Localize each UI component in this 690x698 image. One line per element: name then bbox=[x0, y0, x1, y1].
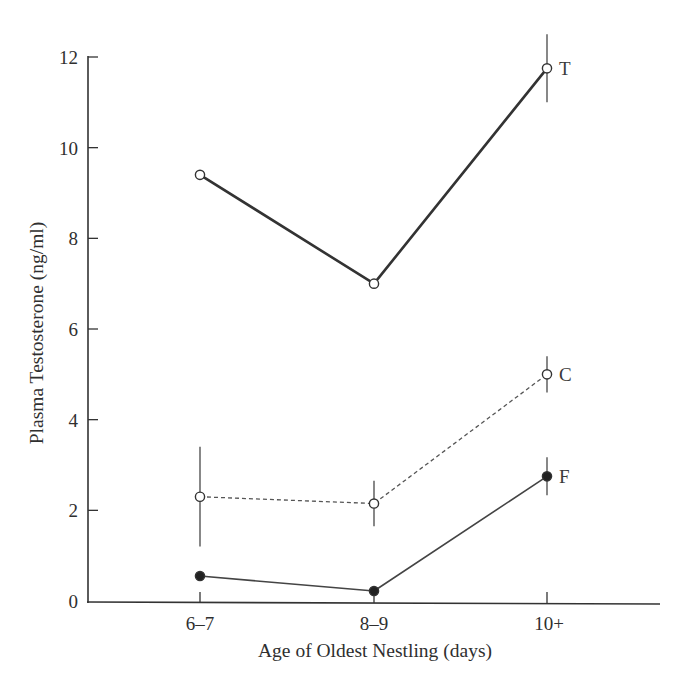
line-chart: 024681012 6–78–910+ TCF Age of Oldest Ne… bbox=[0, 0, 690, 698]
y-tick-label: 12 bbox=[59, 47, 78, 68]
open-circle-marker bbox=[542, 370, 551, 379]
filled-circle-marker bbox=[542, 472, 551, 481]
series-c: C bbox=[195, 356, 571, 546]
open-circle-marker bbox=[542, 64, 551, 73]
y-tick-label: 4 bbox=[69, 410, 79, 431]
y-axis-title: Plasma Testosterone (ng/ml) bbox=[26, 222, 48, 445]
plot-area: TCF bbox=[195, 34, 571, 595]
filled-circle-marker bbox=[195, 571, 204, 580]
y-tick-label: 8 bbox=[69, 228, 79, 249]
y-tick-label: 2 bbox=[69, 500, 79, 521]
x-tick-label: 8–9 bbox=[360, 613, 389, 634]
y-axis: 024681012 bbox=[59, 47, 98, 612]
filled-circle-marker bbox=[369, 586, 378, 595]
series-line bbox=[200, 68, 547, 283]
y-tick-label: 6 bbox=[69, 319, 79, 340]
x-axis-title: Age of Oldest Nestling (days) bbox=[258, 640, 492, 662]
x-axis: 6–78–910+ bbox=[87, 592, 660, 634]
open-circle-marker bbox=[369, 499, 378, 508]
series-f: F bbox=[195, 457, 569, 595]
x-tick-label: 6–7 bbox=[186, 613, 215, 634]
y-tick-label: 10 bbox=[59, 138, 78, 159]
series-t: T bbox=[195, 34, 571, 288]
open-circle-marker bbox=[369, 279, 378, 288]
series-label: T bbox=[559, 58, 571, 79]
series-label: F bbox=[559, 466, 570, 487]
open-circle-marker bbox=[195, 492, 204, 501]
series-label: C bbox=[559, 364, 572, 385]
x-tick-label: 10+ bbox=[534, 613, 564, 634]
y-tick-label: 0 bbox=[69, 591, 79, 612]
open-circle-marker bbox=[195, 170, 204, 179]
